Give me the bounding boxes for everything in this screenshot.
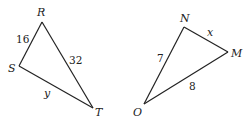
vertex-label-s: S — [8, 62, 16, 75]
vertex-label-r: R — [36, 6, 45, 19]
side-nm — [184, 27, 228, 52]
side-label-no: 7 — [157, 52, 164, 64]
vertex-label-m: M — [230, 47, 243, 60]
diagram-canvas: R S T 16 32 y N M O x 7 8 — [0, 0, 250, 121]
vertex-label-t: T — [95, 106, 104, 119]
side-label-nm: x — [207, 26, 214, 39]
side-no — [144, 27, 184, 104]
side-st — [19, 66, 93, 108]
triangle-rst: R S T 16 32 y — [8, 6, 104, 119]
vertex-label-n: N — [179, 12, 190, 25]
vertex-label-o: O — [133, 106, 142, 119]
side-label-om: 8 — [189, 80, 196, 92]
triangle-nmo: N M O x 7 8 — [133, 12, 243, 119]
side-label-rt: 32 — [69, 54, 82, 66]
side-label-rs: 16 — [16, 33, 30, 45]
side-label-st: y — [43, 87, 51, 100]
